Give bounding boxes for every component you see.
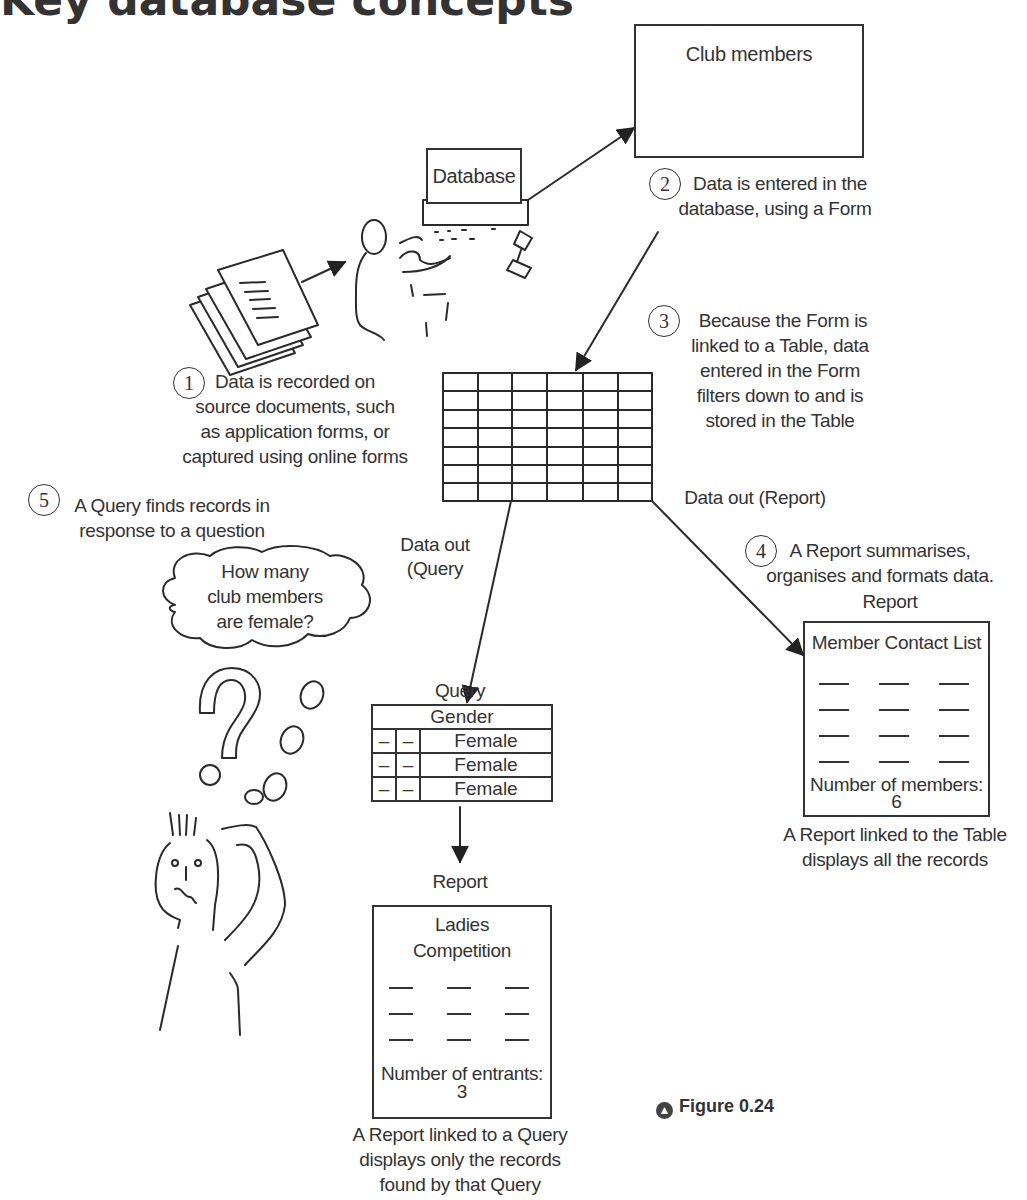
step-2-badge: 2 [649, 168, 681, 200]
table-row: – – Female [372, 729, 552, 753]
entrants-count-value: 3 [374, 1080, 550, 1104]
database-label: Database [428, 164, 520, 188]
step-4-line2: organises and formats data. [755, 564, 1005, 588]
step-2-line2: database, using a Form [670, 197, 880, 221]
step-1-line3: as application forms, or [180, 420, 410, 444]
member-contact-list-report: Member Contact List Number of members: 6 [803, 621, 990, 817]
step-3-line2: linked to a Table, data [670, 334, 890, 358]
confused-person-icon [156, 813, 285, 1035]
thought-line1: How many [190, 560, 340, 584]
data-out-query-label-2: (Query [380, 557, 490, 581]
thought-line2: club members [190, 585, 340, 609]
table-grid-icon [443, 373, 652, 501]
step-3-line5: stored in the Table [670, 409, 890, 433]
query-title: Query [410, 679, 510, 703]
step-5-badge: 5 [28, 484, 60, 516]
step-1-line2: source documents, such [180, 395, 410, 419]
step-1-line4: captured using online forms [170, 445, 420, 469]
source-documents-icon [190, 250, 318, 375]
thought-line3: are female? [190, 610, 340, 634]
member-report-title: Member Contact List [805, 631, 988, 655]
question-mark-icon [200, 668, 260, 758]
ladies-report-title-1: Ladies [374, 913, 550, 937]
step-3-line1: Because the Form is [683, 309, 883, 333]
query-header-gender: Gender [372, 705, 552, 729]
figure-caption: ▲Figure 0.24 [656, 1096, 774, 1119]
ladies-report-title-2: Competition [374, 939, 550, 963]
step-3-line4: filters down to and is [670, 384, 890, 408]
step-2-line1: Data is entered in the [680, 172, 880, 196]
member-report-rows [819, 683, 969, 763]
table-row: – – Female [372, 777, 552, 801]
person-at-computer-icon [356, 220, 532, 340]
step-5-line2: response to a question [62, 519, 282, 543]
table-row: – – Female [372, 753, 552, 777]
query-report-caption-2: displays only the records [330, 1148, 590, 1172]
step-3-line3: entered in the Form [670, 359, 890, 383]
club-members-title: Club members [636, 42, 862, 66]
database-monitor: Database [426, 148, 522, 204]
ladies-report-rows [389, 987, 529, 1041]
club-members-form: Club members [634, 24, 864, 158]
query-report-caption-1: A Report linked to a Query [330, 1123, 590, 1147]
figure-label: Figure 0.24 [679, 1096, 774, 1116]
member-count-value: 6 [805, 790, 988, 814]
data-out-query-label-1: Data out [380, 533, 490, 557]
up-chevron-icon: ▲ [656, 1102, 673, 1119]
table-report-caption-1: A Report linked to the Table [770, 823, 1020, 847]
step-1-line1: Data is recorded on [200, 370, 390, 394]
step-3-badge: 3 [648, 305, 680, 337]
query-report-label: Report [410, 870, 510, 894]
step-4-line1: A Report summarises, [780, 539, 980, 563]
ladies-competition-report: Ladies Competition Number of entrants: 3 [372, 905, 552, 1119]
data-out-report-label: Data out (Report) [665, 486, 845, 510]
step-5-line1: A Query finds records in [62, 494, 282, 518]
query-report-caption-3: found by that Query [330, 1173, 590, 1197]
table-report-label: Report [840, 590, 940, 614]
query-results-table: Gender – – Female – – Female – – Female [371, 704, 553, 802]
step-4-badge: 4 [745, 535, 777, 567]
table-report-caption-2: displays all the records [770, 848, 1020, 872]
